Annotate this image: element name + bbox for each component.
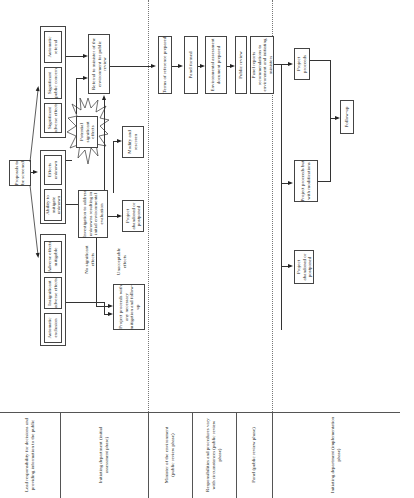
arrowhead bbox=[151, 64, 156, 68]
arrowhead bbox=[117, 214, 122, 218]
group-no-review: Automatic exclusion Insignificant advers… bbox=[40, 234, 66, 346]
lane-divider-responsibilities bbox=[192, 412, 193, 498]
label-no-significant-effects: No significant effects bbox=[84, 240, 95, 280]
connector-effects-unknown bbox=[66, 160, 72, 161]
node-public-review: Public review bbox=[235, 36, 247, 94]
lane-panel: Panel (public review phase) bbox=[251, 425, 257, 485]
node-proceeds-modifications: Project proceeds but with modifications bbox=[294, 160, 318, 202]
start-proposals-box: Proposals to be screened bbox=[9, 160, 31, 186]
arrowhead bbox=[83, 54, 88, 58]
connector-ability-unknown bbox=[66, 204, 78, 205]
group-uncertain: Ability to mitigate unknown Effects unkn… bbox=[40, 150, 66, 224]
lane-divider-implementation bbox=[272, 412, 273, 498]
lane-divider-panel bbox=[236, 412, 237, 498]
connector-potential-to-referral bbox=[76, 78, 77, 114]
node-investigation: Investigation to address unknowns result… bbox=[78, 190, 108, 238]
node-referral-minister: Referral to minister of the environment … bbox=[88, 34, 110, 94]
node-proceeds-mitigation: Project proceeds with any necessary miti… bbox=[113, 284, 145, 330]
node-follow-up: Follow-up bbox=[340, 100, 354, 134]
node-abandoned-initial: Project abandoned or postponed bbox=[122, 200, 144, 232]
node-adverse-mitigable: Adverse effects mitigable bbox=[44, 241, 62, 273]
node-panel-reports: Panel reports recommendations to environ… bbox=[250, 36, 274, 94]
arrowhead bbox=[178, 64, 183, 68]
node-abandoned-final: Project abandoned or postponed bbox=[294, 250, 314, 284]
node-significant-public-concern: Significant public concern bbox=[44, 67, 62, 99]
arrowhead bbox=[108, 312, 113, 316]
node-effects-unknown: Effects unknown bbox=[44, 155, 62, 185]
arrowhead bbox=[83, 76, 88, 80]
connector-panel-to-outcomes bbox=[281, 64, 282, 330]
arrowhead bbox=[288, 264, 293, 268]
arrowhead bbox=[108, 304, 113, 308]
connector-referral-to-terms bbox=[110, 66, 152, 67]
lane-header-divider bbox=[60, 412, 61, 498]
node-ability-mitigate-unknown: Ability to mitigate unknown bbox=[44, 189, 62, 221]
lane-responsibilities: Responsibilities and procedures vary wit… bbox=[205, 417, 222, 493]
connector-insignificant-to-proceeds bbox=[66, 302, 104, 303]
connector-to-modify bbox=[113, 141, 114, 193]
connector-automatic-referral bbox=[66, 56, 84, 57]
node-terms-of-reference: Terms of reference prepared bbox=[158, 36, 172, 94]
lane-divider-minister bbox=[148, 412, 149, 498]
label-unacceptable-effects: Unacceptable effects bbox=[116, 242, 127, 282]
node-insignificant-adverse: Insignificant adverse effects bbox=[44, 277, 62, 309]
node-project-proceeds: Project proceeds bbox=[294, 48, 310, 80]
connector-modifications-to-bracket bbox=[318, 181, 330, 182]
arrowhead bbox=[288, 62, 293, 66]
node-modify-rescreen: Modify and rescreen bbox=[122, 126, 144, 158]
arrowhead bbox=[33, 170, 38, 174]
lane-initiating-initial: Initiating department (initial assessmen… bbox=[98, 415, 110, 495]
node-potential-significant-effects: Potential significant effects bbox=[76, 116, 98, 148]
arrowhead bbox=[288, 181, 293, 185]
arrowhead bbox=[117, 139, 122, 143]
connector-proceeds-to-bracket bbox=[310, 60, 330, 61]
node-automatic-referral: Automatic referral bbox=[44, 31, 62, 63]
connector-bracket-v bbox=[330, 60, 331, 182]
arrowhead bbox=[102, 95, 106, 100]
node-automatic-exclusion: Automatic exclusion bbox=[44, 313, 62, 343]
lane-header-label: Lead responsibility for decisions and pr… bbox=[24, 415, 36, 495]
connector-to-abandoned bbox=[108, 216, 117, 217]
connector-investigation-to-proceeds bbox=[96, 238, 97, 306]
group-referral: Significant adverse effects Significant … bbox=[40, 26, 66, 138]
lane-minister: Minister of the environment (public revi… bbox=[164, 420, 176, 490]
connector-proceeds-h2 bbox=[96, 306, 108, 307]
node-ea-document: Environmental assessment document prepar… bbox=[205, 36, 227, 94]
node-panel-formed: Panel formed bbox=[184, 36, 198, 94]
connector-proceeds-v1 bbox=[104, 302, 105, 314]
node-significant-adverse: Significant adverse effects bbox=[44, 103, 62, 133]
lane-initiating-implementation: Initiating department (implementation ph… bbox=[330, 415, 342, 495]
connector-investigation-to-referral bbox=[104, 98, 105, 190]
